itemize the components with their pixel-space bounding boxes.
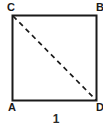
vertex-label-c: C — [7, 2, 15, 13]
geometry-figure: C B A D 1 — [0, 0, 103, 133]
vertex-label-b: B — [96, 2, 103, 13]
vertex-label-d: D — [96, 102, 103, 113]
vertex-label-a: A — [8, 102, 16, 113]
figure-caption: 1 — [0, 113, 103, 125]
